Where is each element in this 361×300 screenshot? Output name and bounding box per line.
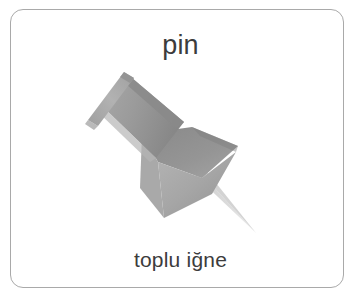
translation-label: toplu iğne [0, 248, 361, 272]
flashcard: pin [0, 0, 361, 300]
page-title: pin [0, 32, 361, 59]
pushpin-illustration [80, 66, 270, 241]
pushpin-icon [80, 66, 270, 241]
